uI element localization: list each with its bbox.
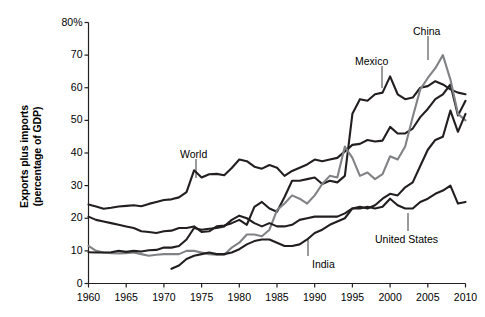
axis-spine (89, 23, 466, 284)
series-line-world (89, 84, 466, 208)
chart-container: Exports plus imports (percentage of GDP)… (0, 0, 485, 317)
plot-area (0, 0, 485, 317)
